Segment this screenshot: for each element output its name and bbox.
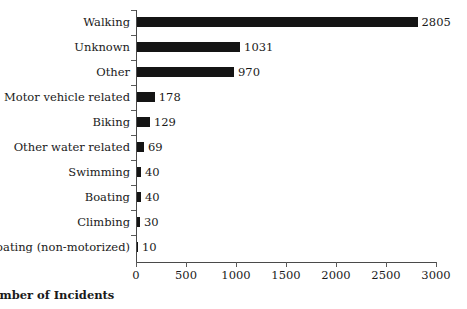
category-label: Other water related <box>14 135 130 160</box>
bar <box>137 142 144 152</box>
x-axis-title: Number of Incidents <box>0 288 467 302</box>
bar-value-label: 30 <box>144 210 159 235</box>
bar <box>137 67 234 77</box>
y-axis-tick <box>131 160 136 161</box>
y-axis-tick <box>131 10 136 11</box>
y-axis-tick <box>131 235 136 236</box>
bar-row: Boating40 <box>0 185 467 210</box>
bar-value-label: 69 <box>148 135 163 160</box>
x-axis-tick-label: 3000 <box>421 268 450 282</box>
x-axis-tick <box>336 262 337 267</box>
bar-value-label: 40 <box>145 160 160 185</box>
x-axis-tick <box>286 262 287 267</box>
plot-area: Walking2805Unknown1031Other970Motor vehi… <box>0 0 467 309</box>
category-label: Swimming <box>68 160 130 185</box>
bar-row: Climbing30 <box>0 210 467 235</box>
x-axis-tick <box>436 262 437 267</box>
bar <box>137 167 141 177</box>
bar-value-label: 2805 <box>422 10 451 35</box>
x-axis-tick <box>136 262 137 267</box>
bar-value-label: 129 <box>154 110 176 135</box>
category-label: Walking <box>83 10 130 35</box>
y-axis-tick <box>131 85 136 86</box>
x-axis-tick <box>386 262 387 267</box>
bar-row: Other970 <box>0 60 467 85</box>
bar-row: Walking2805 <box>0 10 467 35</box>
x-axis-tick <box>186 262 187 267</box>
bar-row: Boating (non-motorized)10 <box>0 235 467 260</box>
bar-row: Unknown1031 <box>0 35 467 60</box>
bar-chart: Walking2805Unknown1031Other970Motor vehi… <box>0 0 467 309</box>
y-axis-tick <box>131 110 136 111</box>
bar-row: Motor vehicle related178 <box>0 85 467 110</box>
y-axis-tick <box>131 135 136 136</box>
x-axis-tick-label: 0 <box>132 268 139 282</box>
bar-row: Other water related69 <box>0 135 467 160</box>
bar <box>137 192 141 202</box>
x-axis-tick <box>236 262 237 267</box>
y-axis-tick <box>131 60 136 61</box>
x-axis-tick-label: 500 <box>175 268 197 282</box>
bar-value-label: 1031 <box>244 35 273 60</box>
y-axis-tick <box>131 35 136 36</box>
bar <box>137 42 240 52</box>
category-label: Boating (non-motorized) <box>0 235 130 260</box>
x-axis-title-text: Number of Incidents <box>0 288 114 302</box>
bar-value-label: 178 <box>159 85 181 110</box>
category-label: Biking <box>92 110 130 135</box>
y-axis-tick <box>131 185 136 186</box>
bar <box>137 117 150 127</box>
x-axis-tick-label: 1000 <box>221 268 250 282</box>
bar-row: Biking129 <box>0 110 467 135</box>
x-axis-tick-label: 2000 <box>321 268 350 282</box>
bar-value-label: 970 <box>238 60 260 85</box>
category-label: Climbing <box>77 210 130 235</box>
y-axis-tick <box>131 210 136 211</box>
x-axis-tick-label: 2500 <box>371 268 400 282</box>
category-label: Motor vehicle related <box>4 85 130 110</box>
x-axis-tick-label: 1500 <box>271 268 300 282</box>
category-label: Boating <box>85 185 130 210</box>
bar-value-label: 40 <box>145 185 160 210</box>
bar-value-label: 10 <box>142 235 157 260</box>
category-label: Unknown <box>74 35 130 60</box>
bar <box>137 92 155 102</box>
bar <box>137 217 140 227</box>
category-label: Other <box>96 60 130 85</box>
bar-row: Swimming40 <box>0 160 467 185</box>
bar <box>137 242 138 252</box>
bar <box>137 17 418 27</box>
